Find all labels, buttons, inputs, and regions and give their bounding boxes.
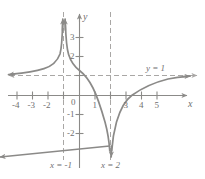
y-tick-label-3: 3 bbox=[70, 33, 75, 42]
function-plot-svg bbox=[0, 0, 205, 179]
x-axis-label: x bbox=[188, 99, 192, 108]
curve-middle-branch bbox=[0, 19, 110, 157]
x-tick-label-3: 3 bbox=[124, 101, 129, 110]
x-tick-label-minus4: -4 bbox=[12, 101, 20, 110]
graph-figure: -4 -3 -2 1 3 4 5 3 2 -1 -2 0 x y x = -1 … bbox=[0, 0, 205, 179]
asymptote-label-y-1: y = 1 bbox=[146, 64, 165, 73]
curve-left-branch bbox=[9, 19, 63, 75]
x-tick-label-minus3: -3 bbox=[28, 101, 36, 110]
x-tick-label-minus2: -2 bbox=[43, 101, 51, 110]
asymptote-label-x-2: x = 2 bbox=[101, 161, 120, 170]
y-axis bbox=[76, 14, 84, 168]
origin-label: 0 bbox=[71, 98, 76, 107]
asymptote-label-x-minus-1: x = -1 bbox=[50, 161, 72, 170]
curve-right-branch bbox=[111, 76, 190, 157]
y-tick-label-2: 2 bbox=[70, 52, 75, 61]
x-tick-label-5: 5 bbox=[155, 101, 160, 110]
y-tick-label-minus1: -1 bbox=[67, 110, 75, 119]
y-axis-label: y bbox=[83, 12, 87, 21]
x-tick-label-4: 4 bbox=[139, 101, 144, 110]
y-tick-label-minus2: -2 bbox=[67, 129, 75, 138]
x-tick-label-1: 1 bbox=[93, 101, 98, 110]
